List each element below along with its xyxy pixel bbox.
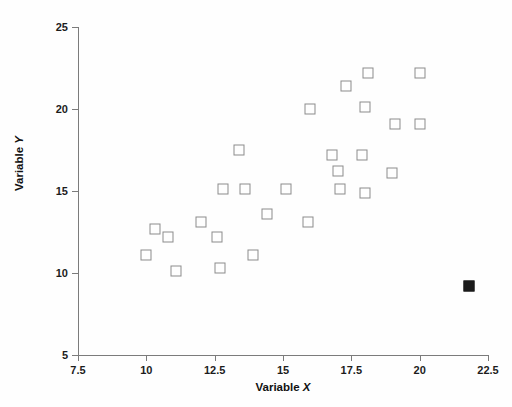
y-tick xyxy=(72,355,78,356)
x-tick-label: 12.5 xyxy=(204,364,225,376)
x-tick-label: 22.5 xyxy=(477,364,498,376)
data-point xyxy=(261,208,272,219)
x-tick xyxy=(146,355,147,361)
x-tick-label: 15 xyxy=(277,364,289,376)
data-point xyxy=(212,231,223,242)
y-tick xyxy=(72,109,78,110)
x-tick-label: 10 xyxy=(140,364,152,376)
data-point xyxy=(280,184,291,195)
data-point xyxy=(149,223,160,234)
data-point xyxy=(163,231,174,242)
data-point xyxy=(335,184,346,195)
y-tick-label: 10 xyxy=(56,267,68,279)
x-tick xyxy=(283,355,284,361)
data-point xyxy=(196,217,207,228)
data-point-outlier xyxy=(463,281,474,292)
x-tick xyxy=(351,355,352,361)
y-axis-title: Variable Y xyxy=(13,136,25,191)
x-tick-label: 20 xyxy=(414,364,426,376)
y-axis-line xyxy=(78,27,79,355)
data-point xyxy=(387,167,398,178)
x-tick xyxy=(488,355,489,361)
data-point xyxy=(332,166,343,177)
data-point xyxy=(357,149,368,160)
data-point xyxy=(340,81,351,92)
x-tick-label: 7.5 xyxy=(70,364,85,376)
y-tick-label: 25 xyxy=(56,21,68,33)
data-point xyxy=(234,145,245,156)
scatter-plot-figure: 7.51012.51517.52022.5 510152025 Variable… xyxy=(0,0,512,407)
data-point xyxy=(360,102,371,113)
x-tick xyxy=(215,355,216,361)
data-point xyxy=(305,104,316,115)
y-tick-label: 20 xyxy=(56,103,68,115)
data-point xyxy=(239,184,250,195)
data-point xyxy=(141,249,152,260)
data-point xyxy=(360,187,371,198)
y-tick xyxy=(72,27,78,28)
data-point xyxy=(390,118,401,129)
y-tick xyxy=(72,273,78,274)
x-tick xyxy=(78,355,79,361)
data-point xyxy=(302,217,313,228)
y-tick-label: 5 xyxy=(62,349,68,361)
data-point xyxy=(362,67,373,78)
data-point xyxy=(217,184,228,195)
data-point xyxy=(247,249,258,260)
data-point xyxy=(171,266,182,277)
data-point xyxy=(215,263,226,274)
x-tick xyxy=(420,355,421,361)
data-point xyxy=(414,67,425,78)
x-tick-label: 17.5 xyxy=(341,364,362,376)
data-point xyxy=(414,118,425,129)
data-point xyxy=(327,149,338,160)
y-tick xyxy=(72,191,78,192)
y-tick-label: 15 xyxy=(56,185,68,197)
x-axis-title: Variable X xyxy=(78,381,488,393)
